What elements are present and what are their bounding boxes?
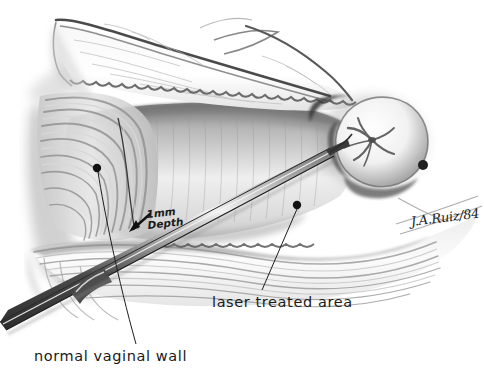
dot-laser-treated-area (293, 201, 301, 209)
illustration-canvas: normal vaginal wall laser treated area 1… (0, 0, 484, 378)
anatomical-drawing (0, 0, 484, 378)
label-normal-vaginal-wall: normal vaginal wall (34, 348, 187, 364)
dot-normal-vaginal-wall (93, 164, 101, 172)
label-laser-treated-area: laser treated area (212, 294, 353, 310)
label-depth-callout: 1mm Depth (146, 205, 184, 230)
